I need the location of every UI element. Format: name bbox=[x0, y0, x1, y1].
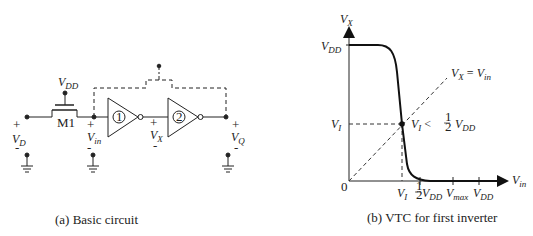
circuit-caption: (a) Basic circuit bbox=[55, 212, 138, 227]
vd-minus: - bbox=[15, 140, 19, 155]
vd-plus: + bbox=[13, 117, 20, 132]
figure: VDD M1 1 2 + VD - + Vin - + VX - + VQ - … bbox=[0, 0, 533, 236]
vtc-chart: VX VDD VI 0 VI 1 2 VDD Vmax VDD Vin VX =… bbox=[321, 12, 527, 225]
point-label-vi: VI < bbox=[411, 117, 431, 133]
vin-minus: - bbox=[87, 140, 91, 155]
inverter-2-number: 2 bbox=[176, 109, 183, 124]
vi-x-tick-label: VI bbox=[397, 186, 408, 202]
point-label-den: 2 bbox=[445, 119, 452, 134]
feedback-path bbox=[94, 74, 226, 117]
m1-label: M1 bbox=[57, 115, 75, 130]
vq-minus: - bbox=[234, 140, 238, 155]
x-axis-arrow-icon bbox=[497, 175, 509, 187]
ground-vin bbox=[87, 153, 99, 172]
circuit-labels: VDD M1 1 2 + VD - + Vin - + VX - + VQ - … bbox=[12, 75, 245, 227]
y-axis-label: VX bbox=[340, 12, 353, 28]
basic-circuit bbox=[21, 64, 234, 172]
x-axis-label: Vin bbox=[512, 173, 527, 189]
ground-vq bbox=[222, 153, 234, 172]
vdd-x-tick-label: VDD bbox=[473, 186, 494, 202]
ground-vd bbox=[21, 153, 33, 172]
vi-tick-label: VI bbox=[331, 117, 342, 133]
origin-label: 0 bbox=[341, 179, 348, 194]
point-label-vdd: VDD bbox=[455, 117, 476, 133]
operating-point bbox=[399, 121, 405, 127]
vdd-label: VDD bbox=[58, 75, 79, 91]
vdd-tick-label: VDD bbox=[321, 39, 342, 55]
inverter-1 bbox=[108, 98, 138, 137]
chart-caption: (b) VTC for first inverter bbox=[367, 210, 498, 225]
vdd-node bbox=[63, 91, 67, 95]
identity-line bbox=[349, 78, 447, 181]
inverter-1-number: 1 bbox=[116, 109, 123, 124]
identity-line-label: VX = Vin bbox=[451, 66, 491, 82]
inverter-2 bbox=[168, 98, 198, 137]
vmax-tick-label: Vmax bbox=[446, 186, 468, 202]
half-vdd-tick-label: VDD bbox=[422, 186, 443, 202]
vx-minus: - bbox=[153, 138, 157, 153]
